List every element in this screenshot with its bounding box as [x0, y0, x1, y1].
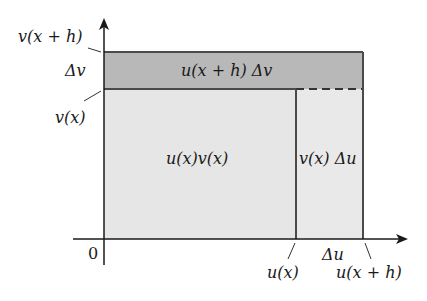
leader-u-x-plus-h — [365, 243, 371, 259]
label-right-strip: v(x) Δu — [299, 149, 357, 168]
product-rule-diagram: v(x + h) Δv v(x) u(x + h) Δv u(x)v(x) v(… — [0, 0, 427, 301]
label-origin: 0 — [88, 244, 98, 263]
label-u-x: u(x) — [267, 263, 299, 282]
label-top-band: u(x + h) Δv — [181, 61, 272, 80]
leader-u-x — [288, 243, 295, 259]
label-delta-u: Δu — [321, 245, 344, 264]
label-u-x-plus-h: u(x + h) — [336, 263, 402, 282]
label-v-x: v(x) — [55, 108, 86, 127]
label-v-x-plus-h: v(x + h) — [18, 27, 82, 46]
leader-v-x-plus-h — [88, 48, 101, 52]
label-main-region: u(x)v(x) — [166, 149, 228, 168]
leader-v-x — [84, 91, 101, 101]
label-delta-v: Δv — [64, 61, 86, 80]
